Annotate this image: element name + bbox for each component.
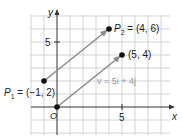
point-5-4 <box>119 52 125 58</box>
y-axis-label: y <box>47 7 54 18</box>
vector-label: v = 5i + 4j <box>97 76 136 86</box>
x-axis-label: x <box>171 111 178 122</box>
point-p1 <box>41 78 47 84</box>
y-axis-arrow-icon <box>55 9 60 15</box>
coordinate-plane: y x O 5 5 P2 = (4, 6) (5, 4) P1 = (−1, 2… <box>0 0 182 137</box>
point-origin <box>54 104 60 110</box>
origin-label: O <box>50 111 57 121</box>
point-5-4-label: (5, 4) <box>128 49 151 60</box>
x-axis-arrow-icon <box>169 105 175 110</box>
point-p1-label: P1 = (−1, 2) <box>4 87 55 100</box>
point-p2-label: P2 = (4, 6) <box>114 23 159 36</box>
y-tick-label: 5 <box>45 37 51 48</box>
x-tick-label: 5 <box>119 112 125 123</box>
point-p2 <box>106 26 112 32</box>
